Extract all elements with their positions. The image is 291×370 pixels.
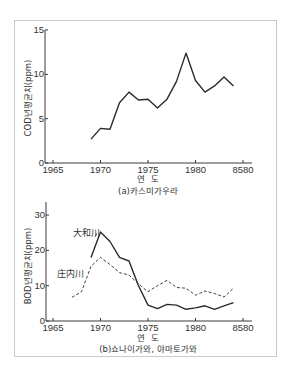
chart-a-series [91,53,234,139]
x-tick-label: 1965 [42,164,63,175]
x-tick-label: 8580 [232,164,253,175]
y-tick-label: 15 [33,24,44,35]
series-line-dashed [72,257,234,297]
chart-a-x-axis-title: 연 도 [137,174,158,184]
series-line-solid [91,53,234,139]
x-tick-label: 8580 [232,322,253,333]
chart-a-caption: (a)카스미가우라 [118,186,178,196]
series-label-shonai-river: 庄内川 [57,268,84,279]
chart-b-axes: 010203019651970197519808580 [34,202,253,333]
series-line-solid [91,232,234,309]
x-tick-label: 1980 [185,322,206,333]
x-tick-label: 1970 [90,164,111,175]
chart-b-x-axis-title: 연 도 [137,333,158,343]
chart-b-caption: (b)쇼나이가와, 야마토가와 [99,344,196,354]
figure-svg: 05101519651970197519808580 COD년평균치(ppm) … [0,0,291,370]
chart-b-series [72,232,234,309]
y-tick-label: 20 [34,244,45,255]
chart-b-y-axis-title: BOD년평균치(ppm) [23,228,33,305]
x-tick-label: 1965 [42,322,63,333]
x-tick-label: 1980 [185,164,206,175]
x-tick-label: 1975 [137,322,158,333]
x-tick-label: 1970 [90,322,111,333]
y-tick-label: 10 [33,68,44,79]
y-tick-label: 30 [34,209,45,220]
chart-a-cod-kasumigaura: 05101519651970197519808580 COD년평균치(ppm) … [23,24,254,196]
chart-b-bod-shonai-yamato: 010203019651970197519808580 大和川 庄内川 BOD년… [23,202,254,354]
series-label-yamato-river: 大和川 [73,227,100,238]
chart-a-y-axis-title: COD년평균치(ppm) [23,60,33,137]
y-tick-label: 10 [34,280,45,291]
y-tick-label: 5 [39,113,44,124]
